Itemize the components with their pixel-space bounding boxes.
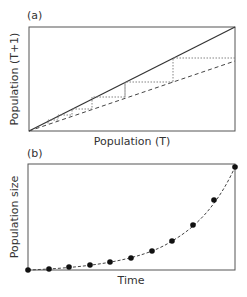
cobweb-steps [48,58,235,124]
panel-a: (a) Population (T) Population (T+1) [8,9,235,148]
panel-a-xlabel: Population (T) [94,135,171,148]
one-to-one-line [29,27,235,131]
panel-b-xlabel: Time [117,274,145,287]
panel-b-label: (b) [27,147,43,160]
growth-curve [28,167,235,270]
figure: (a) Population (T) Population (T+1) (b) [0,0,247,297]
panel-a-ylabel: Population (T+1) [8,33,21,126]
panel-a-label: (a) [27,9,42,22]
data-points [25,164,238,273]
panel-b: (b) Time Population size [8,147,238,287]
recruitment-line [29,61,235,131]
panel-b-frame [28,164,235,270]
panel-b-ylabel: Population size [8,175,21,258]
